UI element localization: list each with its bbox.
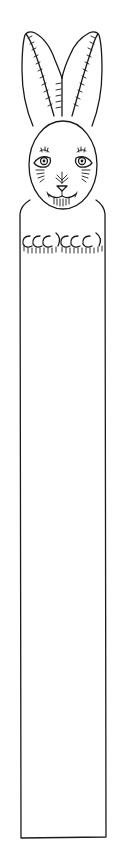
right-ear — [56, 32, 102, 126]
paws — [23, 233, 102, 253]
rabbit-bookmark-drawing — [0, 0, 128, 842]
body-panel — [20, 200, 106, 838]
left-ear — [22, 32, 62, 126]
